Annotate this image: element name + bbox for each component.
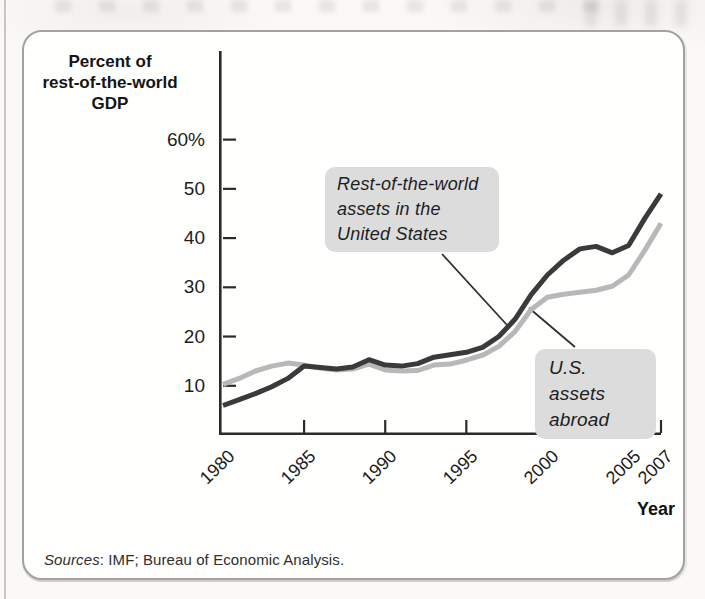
y-tick-label: 20 [184,326,205,348]
y-tick-label: 60% [167,129,205,151]
y-axis-title: Percent of rest-of-the-world GDP [24,51,196,114]
scanned-book-page: Percent of rest-of-the-world GDP 60%5040… [0,0,705,599]
x-axis-title: Year [637,499,675,520]
figure-panel: Percent of rest-of-the-world GDP 60%5040… [22,30,685,580]
scan-noise-top-right [585,0,693,26]
callout-row-assets-in-us: Rest-of-the-world assets in the United S… [325,167,499,252]
sources-text: : IMF; Bureau of Economic Analysis. [100,551,344,568]
y-tick-label: 10 [184,375,205,397]
x-tick-label: 2000 [520,446,563,489]
sources-label: Sources [44,551,100,568]
y-tick-label: 50 [184,178,205,200]
callout-leader-line-row-assets [442,254,507,325]
y-tick-label: 40 [184,227,205,249]
y-tick-label: 30 [184,276,205,298]
x-tick-label: 1985 [277,446,320,489]
page-gutter-line [4,0,6,599]
x-tick-label: 1995 [439,446,482,489]
x-tick-label: 1990 [358,446,401,489]
x-tick-label: 2007 [634,446,677,489]
x-tick-label: 2005 [601,446,644,489]
sources-note: Sources: IMF; Bureau of Economic Analysi… [44,551,344,568]
x-tick-label: 1980 [196,446,239,489]
callout-us-assets-abroad: U.S. assets abroad [535,349,656,439]
callout-leader-line-us-assets [529,308,575,347]
scan-noise-top [55,0,600,12]
